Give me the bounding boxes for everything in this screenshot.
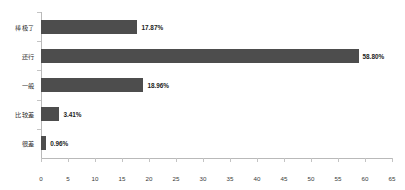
x-axis-tick bbox=[392, 158, 393, 162]
x-axis-tick bbox=[284, 158, 285, 162]
bar bbox=[41, 78, 143, 92]
x-axis-tick-label: 15 bbox=[119, 175, 126, 182]
x-axis-tick bbox=[122, 158, 123, 162]
bar-row: 一般 18.96% bbox=[41, 70, 392, 99]
bar-chart: 棒极了 17.87% 还行 58.80% 一般 18.96% 比较差 3.41%… bbox=[0, 0, 405, 190]
bar-value-label: 18.96% bbox=[143, 81, 169, 88]
x-axis-tick-label: 40 bbox=[254, 175, 261, 182]
bar-value-label: 58.80% bbox=[359, 52, 385, 59]
bar-row: 比较差 3.41% bbox=[41, 100, 392, 129]
x-axis-tick bbox=[338, 158, 339, 162]
x-axis-tick bbox=[176, 158, 177, 162]
x-axis-tick bbox=[68, 158, 69, 162]
x-axis-tick-label: 0 bbox=[39, 175, 42, 182]
x-axis-tick-label: 30 bbox=[200, 175, 207, 182]
x-axis-tick-label: 20 bbox=[146, 175, 153, 182]
x-axis-line bbox=[41, 158, 393, 159]
y-axis-tick bbox=[37, 70, 41, 71]
category-label: 还行 bbox=[22, 51, 34, 60]
bar bbox=[41, 49, 359, 63]
x-axis-tick-label: 10 bbox=[92, 175, 99, 182]
x-axis-tick-label: 55 bbox=[335, 175, 342, 182]
y-axis-tick bbox=[37, 100, 41, 101]
x-axis-tick bbox=[95, 158, 96, 162]
bar-row: 棒极了 17.87% bbox=[41, 12, 392, 41]
y-axis-tick bbox=[37, 41, 41, 42]
x-axis-tick bbox=[41, 158, 42, 162]
x-axis-tick bbox=[311, 158, 312, 162]
x-axis-tick-label: 45 bbox=[281, 175, 288, 182]
bar-row: 还行 58.80% bbox=[41, 41, 392, 70]
x-axis-tick bbox=[149, 158, 150, 162]
x-axis-tick bbox=[203, 158, 204, 162]
bar-value-label: 0.96% bbox=[46, 140, 68, 147]
x-axis-tick-label: 50 bbox=[308, 175, 315, 182]
x-axis-tick-label: 65 bbox=[389, 175, 396, 182]
bar bbox=[41, 107, 59, 121]
bar-value-label: 17.87% bbox=[137, 23, 163, 30]
y-axis-tick bbox=[37, 129, 41, 130]
y-axis-tick bbox=[37, 12, 41, 13]
x-axis-tick-label: 35 bbox=[227, 175, 234, 182]
category-label: 一般 bbox=[22, 80, 34, 89]
x-axis-tick bbox=[230, 158, 231, 162]
category-label: 比较差 bbox=[15, 110, 34, 119]
x-axis-tick-label: 25 bbox=[173, 175, 180, 182]
x-axis-tick bbox=[365, 158, 366, 162]
x-axis-tick-label: 60 bbox=[362, 175, 369, 182]
plot-area: 棒极了 17.87% 还行 58.80% 一般 18.96% 比较差 3.41%… bbox=[41, 12, 392, 158]
category-label: 棒极了 bbox=[15, 22, 34, 31]
x-axis-tick-label: 5 bbox=[66, 175, 69, 182]
bar-row: 很差 0.96% bbox=[41, 129, 392, 158]
bar-value-label: 3.41% bbox=[59, 111, 81, 118]
x-axis-tick bbox=[257, 158, 258, 162]
category-label: 很差 bbox=[22, 139, 34, 148]
bar bbox=[41, 20, 137, 34]
